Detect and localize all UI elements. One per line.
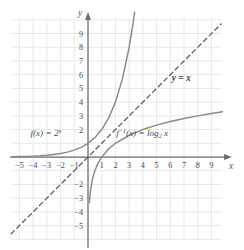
x-tick-label: 8 [196, 161, 200, 170]
y-tick-label: 3 [79, 112, 83, 121]
x-tick-label: 6 [168, 161, 172, 170]
x-tick-label: 9 [209, 161, 213, 170]
plotted-curves [11, 12, 222, 234]
y-tick-label: −2 [74, 180, 83, 189]
yx-label: y = x [171, 73, 191, 83]
y-tick-label: 8 [79, 43, 83, 52]
y-axis-label: y [77, 8, 83, 18]
graph-figure: −5−4−3−2−112345678998765432−2−3−4−5xy f(… [0, 0, 244, 250]
x-tick-label: 4 [141, 161, 145, 170]
x-tick-label: −2 [56, 161, 65, 170]
y-tick-label: −4 [74, 208, 83, 217]
x-tick-label: 1 [100, 161, 104, 170]
f-label: f(x) = 2x [30, 127, 61, 138]
x-tick-label: 5 [155, 161, 159, 170]
y-tick-label: 9 [79, 30, 83, 39]
coordinate-plane-svg: −5−4−3−2−112345678998765432−2−3−4−5xy f(… [0, 0, 244, 250]
x-tick-label: −3 [42, 161, 51, 170]
y-tick-label: 2 [79, 126, 83, 135]
x-tick-label: 7 [182, 161, 186, 170]
x-tick-label: −5 [15, 161, 24, 170]
x-tick-label: 3 [127, 161, 131, 170]
finv-label: f−1(x) = log2 x [116, 127, 169, 140]
y-tick-label: 7 [79, 57, 83, 66]
y-axis-arrow [85, 12, 91, 20]
x-axis-arrow [224, 154, 232, 160]
y-tick-label: 5 [79, 84, 83, 93]
x-tick-label: 2 [113, 161, 117, 170]
y-tick-label: 6 [79, 71, 83, 80]
y-tick-label: −3 [74, 194, 83, 203]
x-axis-label: x [228, 161, 234, 171]
x-tick-label: −1 [70, 161, 79, 170]
y-tick-label: −5 [74, 222, 83, 231]
y-tick-label: 4 [79, 98, 83, 107]
x-tick-label: −4 [29, 161, 38, 170]
